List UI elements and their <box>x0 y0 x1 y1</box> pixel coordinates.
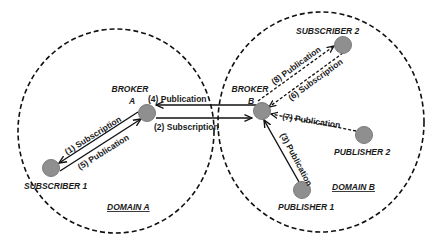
label-broker-b-line2: B <box>248 96 254 106</box>
label-broker-b-line1: BROKER <box>232 84 270 94</box>
label-subscriber-2: SUBSCRIBER 2 <box>296 26 360 36</box>
node-publisher-2 <box>356 127 373 144</box>
label-domain-b: DOMAIN B <box>332 182 375 192</box>
label-edge-2: (2) Subscription <box>154 122 219 132</box>
label-edge-7: (7) Publication <box>282 111 341 130</box>
node-broker-a <box>139 105 156 122</box>
label-domain-a: DOMAIN A <box>107 202 150 212</box>
label-edge-3: (3) Publication <box>278 131 314 187</box>
label-publisher-2: PUBLISHER 2 <box>334 147 390 157</box>
node-subscriber-2 <box>335 37 352 54</box>
pubsub-diagram: BROKER A BROKER B SUBSCRIBER 1 SUBSCRIBE… <box>0 0 439 247</box>
label-subscriber-1: SUBSCRIBER 1 <box>24 181 88 191</box>
node-broker-b <box>254 103 271 120</box>
node-subscriber-1 <box>43 160 60 177</box>
label-publisher-1: PUBLISHER 1 <box>278 202 334 212</box>
label-broker-a-line2: A <box>128 96 135 106</box>
label-broker-a-line1: BROKER <box>112 84 150 94</box>
label-edge-4: (4) Publication <box>148 94 207 104</box>
